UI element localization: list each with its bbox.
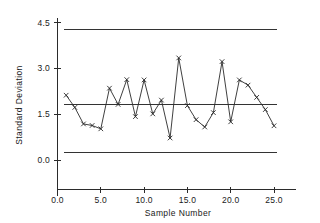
data-point <box>246 83 251 88</box>
x-axis-title: Sample Number <box>145 208 212 218</box>
x-tick-label-1: 5.0 <box>95 195 107 205</box>
data-point <box>254 95 259 100</box>
x-tick-label-5: 25.0 <box>265 195 282 205</box>
data-point <box>272 123 277 128</box>
y-tick-label-0: 4.5 <box>38 18 50 28</box>
reference-lines <box>64 30 277 153</box>
chart-canvas: 4.5 3.0 1.5 0.0 0.0 5.0 10.0 15.0 20.0 2… <box>0 0 320 223</box>
series-line <box>66 58 274 138</box>
control-chart: 4.5 3.0 1.5 0.0 0.0 5.0 10.0 15.0 20.0 2… <box>0 0 320 223</box>
data-point <box>73 105 78 110</box>
y-tick-label-2: 1.5 <box>38 109 50 119</box>
y-tick-label-3: 0.0 <box>38 155 50 165</box>
y-axis-tick-labels: 4.5 3.0 1.5 0.0 <box>38 18 50 166</box>
y-tick-label-1: 3.0 <box>38 63 50 73</box>
data-point <box>202 125 207 130</box>
data-point <box>194 117 199 122</box>
x-tick-label-2: 10.0 <box>135 195 152 205</box>
x-tick-label-4: 20.0 <box>222 195 239 205</box>
data-point <box>263 107 268 112</box>
x-tick-label-3: 15.0 <box>179 195 196 205</box>
data-series <box>64 56 276 141</box>
x-axis-tick-labels: 0.0 5.0 10.0 15.0 20.0 25.0 <box>51 195 282 205</box>
data-point <box>64 93 69 98</box>
y-axis-title: Standard Deviation <box>14 65 24 145</box>
x-tick-label-0: 0.0 <box>51 195 63 205</box>
